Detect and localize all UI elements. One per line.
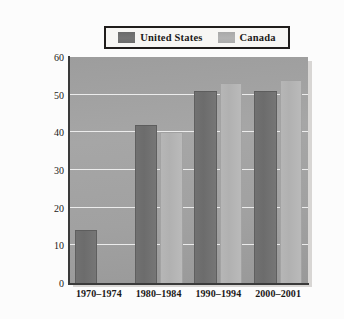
y-tick-label-50: 50 (38, 89, 64, 100)
legend-entry-united-states: United States (118, 32, 202, 43)
y-tick-label-40: 40 (38, 127, 64, 138)
bar-canada-1990–1994 (220, 83, 242, 283)
x-tick-label-1990–1994: 1990–1994 (195, 288, 241, 299)
legend-swatch-canada-icon (218, 32, 235, 43)
chart-legend: United States Canada (104, 26, 290, 49)
y-tick-label-10: 10 (38, 240, 64, 251)
legend-label-united-states: United States (140, 32, 202, 43)
legend-swatch-united-states-icon (118, 32, 135, 43)
x-tick-label-2000–2001: 2000–2001 (255, 288, 301, 299)
bar-united-states-1990–1994 (194, 91, 216, 283)
legend-label-canada: Canada (240, 32, 276, 43)
x-tick-label-1980–1984: 1980–1984 (136, 288, 182, 299)
y-tick-label-0: 0 (38, 278, 64, 289)
x-axis-tick-labels: 1970–19741980–19841990–19942000–2001 (69, 288, 308, 304)
y-tick-label-20: 20 (38, 202, 64, 213)
bar-chart-figure: United States Canada Percentage of First… (0, 0, 344, 319)
plot-area (69, 57, 308, 283)
bar-canada-1980–1984 (160, 132, 182, 283)
bar-canada-2000–2001 (280, 80, 302, 283)
x-axis-line (68, 283, 309, 285)
y-axis-line (68, 56, 70, 284)
y-axis-tick-labels: 0102030405060 (38, 57, 64, 283)
y-tick-label-60: 60 (38, 52, 64, 63)
bar-united-states-1970–1974 (75, 230, 97, 283)
bar-united-states-2000–2001 (254, 91, 276, 283)
y-tick-label-30: 30 (38, 165, 64, 176)
legend-entry-canada: Canada (218, 32, 276, 43)
x-tick-label-1970–1974: 1970–1974 (76, 288, 122, 299)
bar-united-states-1980–1984 (135, 125, 157, 283)
